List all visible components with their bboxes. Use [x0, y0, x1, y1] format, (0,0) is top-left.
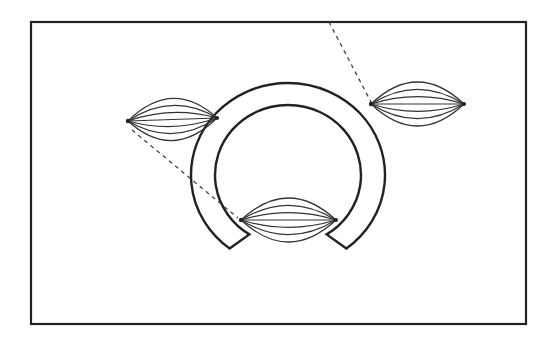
spindle-fiber — [128, 98, 217, 121]
frame-border — [31, 22, 526, 324]
spindle-fiber — [241, 220, 336, 227]
spindle-pole — [126, 119, 130, 123]
spindle-right — [369, 82, 466, 126]
spindle-pole — [334, 218, 338, 222]
spindle-pole — [462, 102, 466, 106]
diagram-canvas — [0, 0, 557, 345]
spindle-pole — [215, 116, 219, 120]
spindle-fiber — [371, 104, 464, 111]
spindle-fiber — [128, 118, 217, 121]
dashed-line-top-to-right — [329, 22, 371, 102]
spindle-pole — [369, 102, 373, 106]
spindle-diagram — [0, 0, 557, 345]
spindle-pole — [239, 218, 243, 222]
arch-shape — [191, 83, 385, 248]
spindle-bottom — [239, 198, 338, 242]
spindle-fiber — [241, 213, 336, 220]
spindle-fiber — [371, 97, 464, 104]
frame — [31, 22, 526, 324]
horseshoe-arch — [191, 83, 385, 248]
